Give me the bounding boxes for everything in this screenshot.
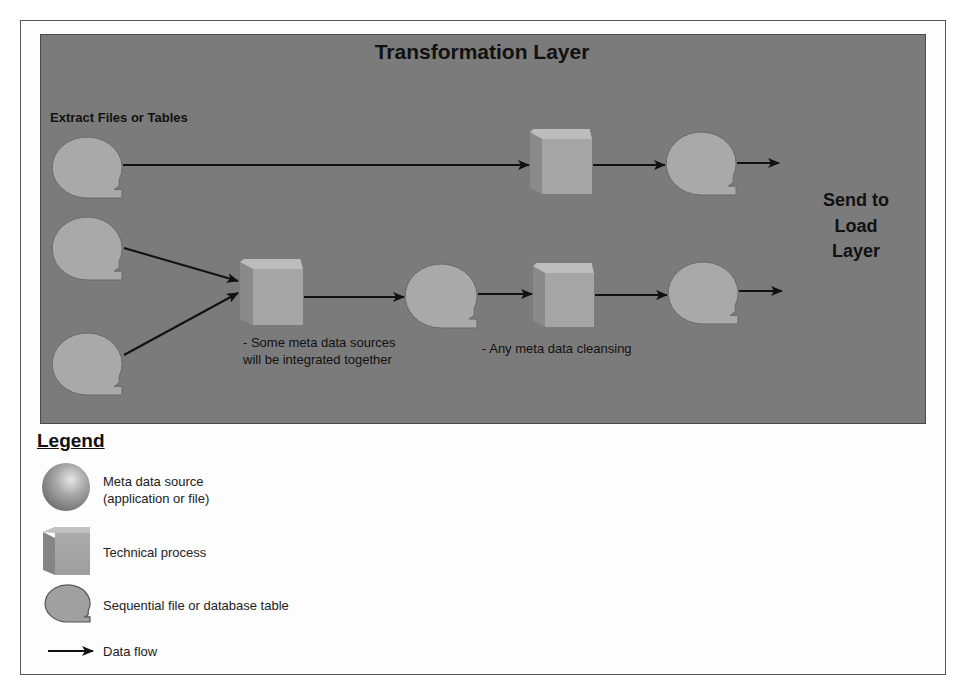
send-label-line-2: Load — [806, 214, 906, 240]
sequential-file-node-out-bottom — [668, 262, 738, 324]
legend-label: (application or file) — [103, 490, 209, 507]
integration-note: - Some meta data sources will be integra… — [243, 334, 395, 368]
legend-label: Meta data source — [103, 473, 209, 490]
sequential-file-node-src1 — [52, 137, 122, 198]
sequential-file-node-src3 — [52, 333, 122, 395]
technical-process-node-proc-top — [530, 129, 592, 194]
send-to-load-layer-label: Send to Load Layer — [806, 188, 906, 265]
technical-process-cube-icon — [43, 527, 90, 575]
sequential-file-icon — [45, 585, 90, 622]
extract-files-label: Extract Files or Tables — [50, 110, 188, 125]
send-label-line-3: Layer — [806, 239, 906, 265]
legend-item-meta-data-source: Meta data source (application or file) — [103, 473, 209, 507]
sequential-file-node-src2 — [52, 217, 122, 280]
sequential-file-node-mid-table — [405, 264, 477, 328]
legend-icons — [42, 463, 93, 651]
legend-title: Legend — [37, 430, 105, 452]
meta-data-source-sphere-icon — [42, 463, 90, 511]
panel-title: Transformation Layer — [0, 40, 964, 64]
technical-process-node-proc-cleanse — [533, 263, 594, 327]
legend-item-sequential-file: Sequential file or database table — [103, 597, 289, 614]
legend-item-data-flow: Data flow — [103, 643, 157, 660]
integration-note-line-1: - Some meta data sources — [243, 334, 395, 351]
integration-note-line-2: will be integrated together — [243, 351, 395, 368]
sequential-file-node-out-top — [666, 132, 736, 195]
cleansing-note: - Any meta data cleansing — [482, 340, 632, 357]
technical-process-node-proc-integrate — [240, 259, 303, 325]
legend-item-technical-process: Technical process — [103, 544, 206, 561]
data-flow-arrow-src3-to-proc-integrate — [124, 293, 238, 355]
data-flow-arrow-src2-to-proc-integrate — [124, 248, 238, 281]
send-label-line-1: Send to — [806, 188, 906, 214]
